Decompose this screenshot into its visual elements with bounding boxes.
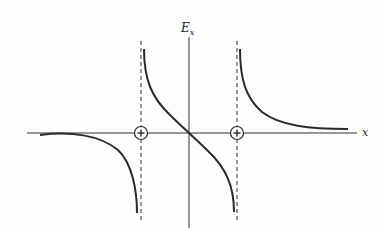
- x-axis-label: x: [362, 126, 369, 139]
- left-field-branch: [40, 134, 137, 213]
- field-diagram: Ex x: [0, 0, 383, 231]
- left-charge: [135, 127, 148, 140]
- right-charge: [231, 127, 244, 140]
- diagram-svg: Ex x: [0, 0, 383, 231]
- right-field-branch: [240, 49, 348, 129]
- y-axis-label: Ex: [180, 21, 195, 37]
